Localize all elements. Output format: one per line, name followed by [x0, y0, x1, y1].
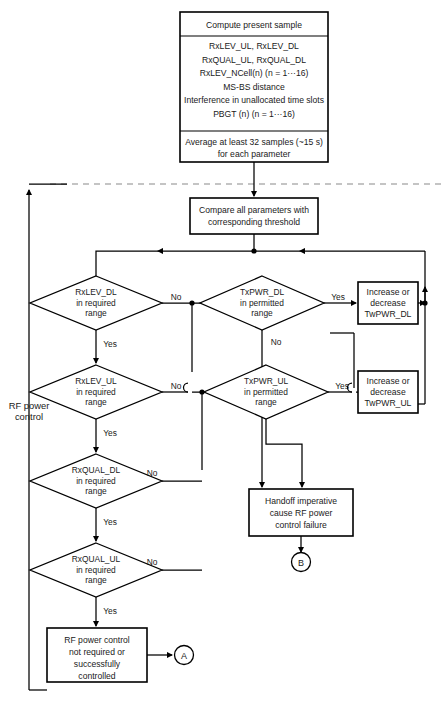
rxqual-dl-line-2: range [85, 486, 107, 496]
txpwr-dl-line-2: range [251, 308, 273, 318]
label-txpwr-ul-yes: Yes [335, 381, 349, 391]
rxlev-ul-line-0: RxLEV_UL [75, 376, 117, 386]
rxqual-dl-decision-node: RxQUAL_DL in required range [30, 454, 162, 508]
increase-decrease-dl-node: Increase or decrease TwPWR_DL [358, 282, 418, 324]
inc-dec-ul-line-0: Increase or [367, 376, 410, 386]
rxlev-dl-decision-node: RxLEV_DL in required range [30, 276, 162, 330]
side-label-line-1: control [15, 411, 43, 422]
rxlev-dl-line-0: RxLEV_DL [75, 287, 117, 297]
edge-bus-to-rxlev-dl [96, 251, 158, 278]
rf-ok-line-1: not required or [69, 647, 125, 657]
rf-ok-line-0: RF power control [64, 635, 130, 645]
rf-power-ok-node: RF power control not required or success… [47, 628, 147, 682]
compute-footer-line-1: for each parameter [218, 149, 291, 159]
label-rxlev-ul-yes: Yes [103, 428, 117, 438]
label-rxlev-dl-yes: Yes [103, 339, 117, 349]
txpwr-ul-line-2: range [255, 397, 277, 407]
rxqual-ul-line-2: range [85, 575, 107, 585]
compute-header-text: Compute present sample [206, 20, 302, 30]
rxlev-ul-line-1: in required [76, 387, 116, 397]
edge-hop-row2-left [184, 383, 189, 392]
connector-b-node: B [292, 553, 311, 572]
rxlev-ul-decision-node: RxLEV_UL in required range [30, 365, 162, 419]
flowchart-page: Compute present sample RxLEV_UL, RxLEV_D… [0, 0, 441, 708]
inc-dec-ul-line-1: decrease [370, 387, 406, 397]
rxqual-ul-decision-node: RxQUAL_UL in required range [30, 543, 162, 597]
handoff-node: Handoff imperative cause RF power contro… [249, 489, 353, 536]
side-label-line-0: RF power [9, 400, 50, 411]
compare-line-0: Compare all parameters with [199, 205, 309, 215]
edge-txpwr-ul-no [266, 419, 302, 487]
compare-box [190, 198, 318, 234]
label-rxlev-dl-no: No [171, 292, 182, 302]
inc-dec-dl-line-0: Increase or [367, 287, 410, 297]
label-txpwr-dl-yes: Yes [331, 292, 345, 302]
compute-param-2: RxLEV_NCell(n) (n = 1···16) [200, 68, 309, 78]
compute-param-0: RxLEV_UL, RxLEV_DL [209, 41, 299, 51]
rxlev-dl-line-2: range [85, 308, 107, 318]
increase-decrease-ul-node: Increase or decrease TwPWR_UL [358, 371, 418, 413]
compute-param-3: MS-BS distance [223, 82, 285, 92]
compute-footer-line-0: Average at least 32 samples (~15 s) [185, 137, 323, 147]
txpwr-ul-line-0: TxPWR_UL [244, 376, 289, 386]
label-txpwr-dl-no: No [271, 337, 282, 347]
label-rxqual-ul-yes: Yes [103, 606, 117, 616]
compute-param-5: PBGT (n) (n = 1···16) [213, 109, 295, 119]
label-rxqual-ul-no: No [147, 557, 158, 567]
rxlev-dl-line-1: in required [76, 298, 116, 308]
compare-line-1: corresponding threshold [208, 217, 300, 227]
inc-dec-dl-line-1: decrease [370, 298, 406, 308]
txpwr-ul-decision-node: TxPWR_UL in permitted range [204, 365, 328, 419]
compare-parameters-node: Compare all parameters with correspondin… [190, 198, 318, 234]
txpwr-dl-line-0: TxPWR_DL [240, 287, 285, 297]
connector-a-node: A [175, 646, 194, 665]
rxqual-ul-line-1: in required [76, 565, 116, 575]
rf-ok-line-3: controlled [78, 671, 115, 681]
label-rxqual-dl-yes: Yes [103, 517, 117, 527]
handoff-line-2: control failure [275, 520, 327, 530]
txpwr-ul-line-1: in permitted [244, 387, 288, 397]
flowchart-canvas: Compute present sample RxLEV_UL, RxLEV_D… [0, 0, 441, 708]
inc-dec-dl-line-2: TwPWR_DL [365, 309, 412, 319]
rxqual-dl-line-1: in required [76, 476, 116, 486]
rxqual-dl-line-0: RxQUAL_DL [72, 465, 121, 475]
junction-dot-bus [251, 248, 256, 253]
compute-param-1: RxQUAL_UL, RxQUAL_DL [202, 55, 306, 65]
label-rxlev-ul-no: No [171, 381, 182, 391]
handoff-line-0: Handoff imperative [265, 496, 337, 506]
inc-dec-ul-line-2: TwPWR_UL [365, 398, 412, 408]
compute-present-sample-node: Compute present sample RxLEV_UL, RxLEV_D… [180, 12, 328, 162]
handoff-line-1: cause RF power [270, 508, 333, 518]
txpwr-dl-decision-node: TxPWR_DL in permitted range [200, 276, 324, 330]
connector-a-label: A [181, 651, 187, 661]
rxqual-ul-line-0: RxQUAL_UL [72, 554, 121, 564]
compute-param-4: Interference in unallocated time slots [184, 95, 324, 105]
connector-b-label: B [298, 558, 304, 568]
label-rxqual-dl-no: No [147, 468, 158, 478]
txpwr-dl-line-1: in permitted [240, 298, 284, 308]
rxlev-ul-line-2: range [85, 397, 107, 407]
rf-ok-line-2: successfully [74, 659, 121, 669]
